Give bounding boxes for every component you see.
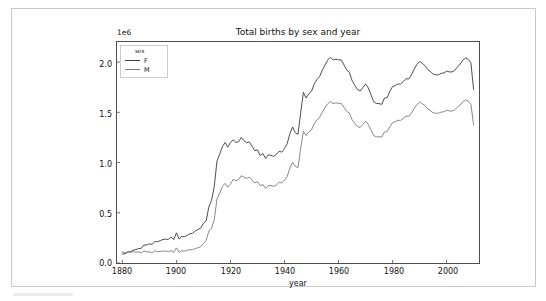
legend-line-swatch-m [125,69,140,70]
x-tick-label: 1980 [374,267,414,276]
screenshot-root: Total births by sex and year 1e6 2.0 1.5… [0,0,546,301]
x-tick-label: 2000 [428,267,468,276]
legend-item-f: F [124,56,164,65]
x-tick-label: 1900 [156,267,196,276]
legend-label-m: M [144,66,150,74]
legend-line-swatch-f [125,60,140,61]
legend-label-f: F [144,57,148,65]
x-tick-label: 1940 [265,267,305,276]
x-tick-label: 1920 [211,267,251,276]
x-axis-tick-labels: 1880 1900 1920 1940 1960 1980 2000 [12,9,546,301]
legend: sex F M [120,45,168,78]
x-axis-title: year [116,279,480,288]
x-tick-label: 1960 [319,267,359,276]
legend-title: sex [124,48,164,55]
figure-card: Total births by sex and year 1e6 2.0 1.5… [11,8,536,287]
legend-item-m: M [124,65,164,74]
scan-artifact [13,293,73,296]
x-tick-label: 1880 [102,267,142,276]
